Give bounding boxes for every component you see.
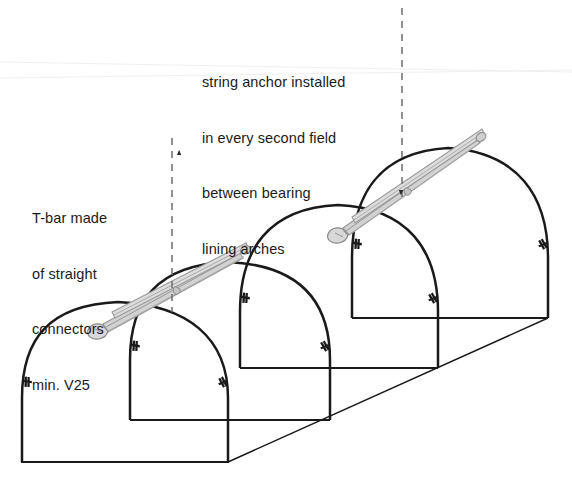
t-bar-line-3: connectors [32,320,107,339]
string-anchor-line-4: lining arches [202,240,345,259]
t-bar-saddle [173,287,180,294]
string-anchor-note: string anchor installed in every second … [202,36,345,295]
string-anchor-line-2: in every second field [202,129,345,148]
diagram-canvas: string anchor installed in every second … [0,0,572,484]
t-bar-note: T-bar made of straight connectors min. V… [32,172,107,431]
t-bar-line-4: min. V25 [32,376,107,395]
t-bar-saddle [404,188,411,195]
t-bar-line-1: T-bar made [32,209,107,228]
string-anchor-line-1: string anchor installed [202,73,345,92]
t-bar-line-2: of straight [32,265,107,284]
string-anchor-line-3: between bearing [202,184,345,203]
